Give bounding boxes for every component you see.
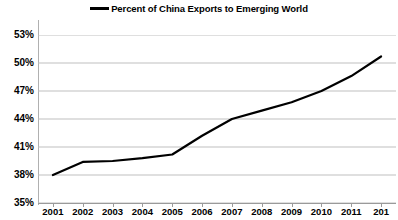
series-line-percent-of-china-exports-to-emerging-world [53, 56, 381, 175]
x-axis-tick-mark [351, 203, 352, 207]
x-axis-tick-label: 2004 [127, 206, 157, 218]
y-axis-tick-label: 41% [1, 142, 34, 152]
x-axis-tick-mark [202, 203, 203, 207]
x-axis-tick-mark [142, 203, 143, 207]
x-axis-tick-label: 2008 [247, 206, 277, 218]
x-axis-tick-label: 2011 [336, 206, 366, 218]
gridlines [38, 35, 396, 203]
x-axis-tick-label: 2003 [98, 206, 128, 218]
y-axis-tick-label: 35% [1, 198, 34, 208]
x-axis-line [38, 203, 396, 204]
x-axis-tick-label: 2010 [306, 206, 336, 218]
y-axis-tick-label: 50% [1, 58, 34, 68]
chart-container: Percent of China Exports to Emerging Wor… [0, 0, 398, 220]
x-axis-tick-mark [83, 203, 84, 207]
y-axis-labels: 35%38%41%44%47%50%53% [0, 0, 34, 220]
x-axis-tick-mark [172, 203, 173, 207]
x-axis-tick-label: 2002 [68, 206, 98, 218]
x-axis-tick-label: 201 [366, 206, 396, 218]
chart-legend: Percent of China Exports to Emerging Wor… [0, 1, 398, 15]
x-axis-tick-mark [292, 203, 293, 207]
x-axis-tick-label: 2001 [38, 206, 68, 218]
x-axis-tick-mark [321, 203, 322, 207]
x-axis-tick-label: 2009 [277, 206, 307, 218]
x-axis-tick-mark [113, 203, 114, 207]
y-axis-tick-label: 38% [1, 170, 34, 180]
legend-line-swatch-icon [90, 7, 109, 10]
x-axis-tick-mark [232, 203, 233, 207]
plot-svg [38, 35, 396, 203]
x-axis-tick-mark [53, 203, 54, 207]
legend-label: Percent of China Exports to Emerging Wor… [111, 3, 308, 14]
plot-area [38, 35, 396, 203]
x-axis-tick-label: 2007 [217, 206, 247, 218]
x-axis-labels: 2001200220032004200520062007200820092010… [38, 206, 398, 220]
y-axis-tick-label: 44% [1, 114, 34, 124]
y-axis-tick-label: 47% [1, 86, 34, 96]
y-axis-tick-label: 53% [1, 30, 34, 40]
x-axis-tick-label: 2006 [187, 206, 217, 218]
x-axis-tick-mark [381, 203, 382, 207]
legend-entry: Percent of China Exports to Emerging Wor… [90, 3, 308, 14]
x-axis-tick-label: 2005 [157, 206, 187, 218]
x-axis-tick-mark [262, 203, 263, 207]
